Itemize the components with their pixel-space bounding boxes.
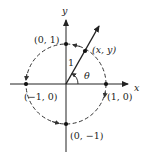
label-point-0-1: (0, 1)	[34, 34, 60, 45]
y-axis-label: y	[61, 5, 68, 16]
label-point-1-0: (1, 0)	[107, 91, 133, 102]
point-1-0	[104, 82, 108, 86]
x-axis-label: x	[134, 82, 140, 93]
unit-circle-diagram: y x (0, 1) (x, y) (−1, 0) (1, 0) (0, −1)…	[0, 0, 150, 162]
label-point-x-y: (x, y)	[92, 44, 116, 55]
arc-arrow-q3	[52, 122, 59, 124]
label-point-neg1-0: (−1, 0)	[24, 91, 58, 102]
point-0-neg1	[64, 122, 68, 126]
label-point-0-neg1: (0, −1)	[70, 130, 104, 141]
angle-arc	[72, 74, 78, 84]
point-0-1	[64, 42, 68, 46]
point-x-y	[83, 49, 87, 53]
terminal-ray	[66, 26, 99, 84]
angle-theta-label: θ	[84, 70, 90, 81]
point-neg1-0	[24, 82, 28, 86]
ray-length-label: 1	[68, 57, 74, 68]
